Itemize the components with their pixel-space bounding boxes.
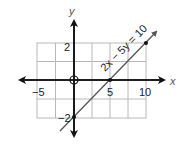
graph-canvas: y x 2 −2 −5 5 10 2x − 5y = 10 <box>0 0 192 145</box>
tick-label-x-5: 5 <box>107 86 113 98</box>
coordinate-graph: y x 2 −2 −5 5 10 2x − 5y = 10 <box>0 0 192 145</box>
tick-label-x-10: 10 <box>139 86 151 98</box>
point-10-2 <box>144 41 148 45</box>
point-0-neg2 <box>72 115 76 119</box>
point-5-0 <box>108 78 112 82</box>
x-axis-label: x <box>169 75 176 87</box>
tick-label-y-2: 2 <box>64 41 70 53</box>
tick-label-x-neg5: −5 <box>32 86 45 98</box>
y-axis-label: y <box>68 5 76 17</box>
tick-label-y-neg2: −2 <box>58 112 71 124</box>
